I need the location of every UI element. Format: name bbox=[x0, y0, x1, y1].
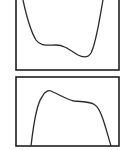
top-panel-curve bbox=[23, 0, 103, 57]
bottom-panel-frame bbox=[16, 77, 119, 146]
diagram-canvas bbox=[0, 0, 125, 150]
bottom-panel-curve bbox=[31, 91, 111, 146]
top-panel-frame bbox=[16, 0, 119, 70]
